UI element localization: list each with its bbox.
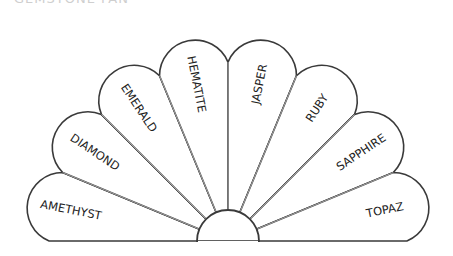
gemstone-fan-diagram: AMETHYSTDIAMONDEMERALDHEMATITEJASPERRUBY… <box>0 0 453 256</box>
